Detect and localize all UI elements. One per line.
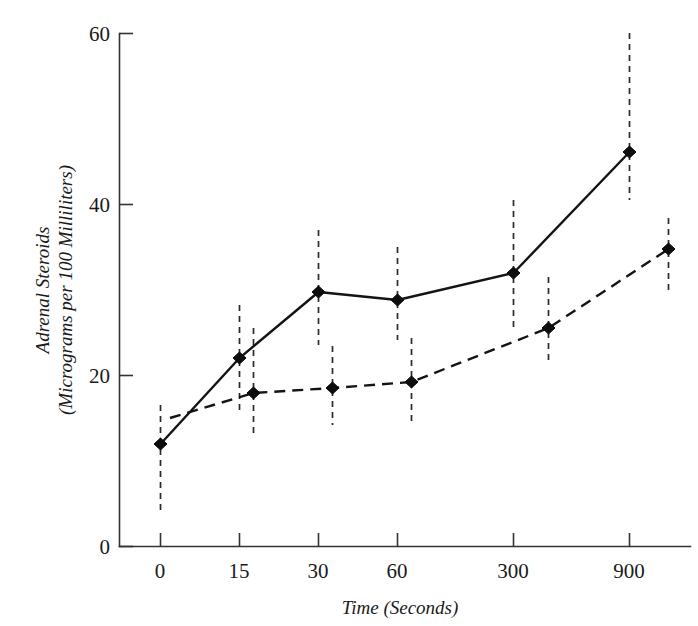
x-axis-ticks [161,533,630,547]
y-tick-label-40: 40 [89,193,110,217]
data-point-dashed-30 [326,382,339,394]
data-point-solid-60 [391,294,404,306]
x-tick-label-900: 900 [613,559,645,583]
data-point-dashed-60 [405,376,418,388]
x-axis-title: Time (Seconds) [342,597,459,619]
y-axis-title-line2: (Micrograms per 100 Milliliters) [55,165,77,415]
x-axis-tick-labels: 0 15 30 60 300 900 [155,559,645,583]
x-tick-label-0: 0 [155,559,166,583]
chart-plot-area: 0 20 40 60 0 15 30 60 300 900 Time (Seco… [0,0,698,626]
x-tick-label-300: 300 [497,559,529,583]
y-tick-label-20: 20 [89,364,110,388]
y-axis-tick-labels: 0 20 40 60 [89,22,110,559]
y-axis-ticks [120,34,134,547]
x-tick-label-30: 30 [308,559,329,583]
error-bars-solid-series [161,33,630,510]
y-tick-label-0: 0 [100,535,111,559]
y-axis-title-line1: Adrenal Steroids [32,227,53,356]
data-point-dashed-15 [247,387,260,399]
dashed-line-series-path [170,249,669,418]
x-tick-label-60: 60 [387,559,408,583]
error-bars-dashed-series [254,218,669,437]
dashed-series-markers [247,243,675,399]
x-tick-label-15: 15 [229,559,250,583]
solid-series-markers [154,146,636,450]
chart-figure: 0 20 40 60 0 15 30 60 300 900 Time (Seco… [0,0,698,626]
y-tick-label-60: 60 [89,22,110,46]
